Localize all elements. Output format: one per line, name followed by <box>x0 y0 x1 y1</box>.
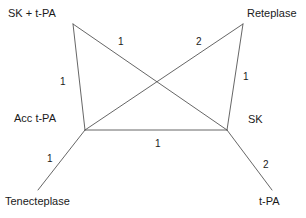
node-label-tenecteplase: Tenecteplase <box>5 196 70 207</box>
edge-sk_tpa-acc_tpa <box>73 24 85 130</box>
node-label-sk_tpa: SK + t-PA <box>8 8 56 19</box>
network-diagram: 1121112SK + t-PAReteplaseAcc t-PASKTenec… <box>0 0 306 218</box>
node-label-sk: SK <box>248 114 263 125</box>
edge-weight-sk-tpa: 2 <box>263 160 269 170</box>
node-label-acc_tpa: Acc t-PA <box>14 113 56 124</box>
network-edges-layer <box>0 0 306 218</box>
edge-weight-acc_tpa-sk: 1 <box>155 139 161 149</box>
edge-weight-reteplase-sk: 1 <box>243 72 249 82</box>
edge-acc_tpa-tenecteplase <box>38 130 85 190</box>
edge-weight-sk_tpa-acc_tpa: 1 <box>60 77 66 87</box>
edge-sk_tpa-sk <box>73 24 227 130</box>
edge-reteplase-sk <box>227 24 243 130</box>
edge-weight-sk_tpa-sk: 1 <box>118 37 124 47</box>
node-label-tpa: t-PA <box>259 196 280 207</box>
edge-weight-reteplase-acc_tpa: 2 <box>196 37 202 47</box>
edge-weight-acc_tpa-tenecteplase: 1 <box>47 154 53 164</box>
edge-lines <box>38 24 272 190</box>
node-label-reteplase: Reteplase <box>247 8 297 19</box>
edge-reteplase-acc_tpa <box>85 24 243 130</box>
